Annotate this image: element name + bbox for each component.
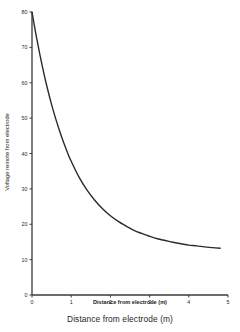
chart-background xyxy=(0,0,240,305)
y-tick-label: 30 xyxy=(22,186,28,192)
y-tick-label: 10 xyxy=(22,257,28,263)
y-tick-label: 80 xyxy=(22,9,28,15)
x-tick-label: 5 xyxy=(227,299,230,305)
y-tick-label: 40 xyxy=(22,151,28,157)
y-tick-label: 20 xyxy=(22,221,28,227)
y-tick-label: 0 xyxy=(25,292,28,298)
x-axis-title: Distance from electrode (m) xyxy=(93,299,167,305)
y-axis-title: Voltage remote from electrode xyxy=(4,113,10,191)
figure-caption: Distance from electrode (m) xyxy=(0,314,240,324)
x-tick-label: 0 xyxy=(31,299,34,305)
y-tick-label: 70 xyxy=(22,44,28,50)
x-tick-label: 1 xyxy=(70,299,73,305)
chart-figure: 01020304050607080 012345 Voltage remote … xyxy=(0,0,240,332)
y-tick-label: 60 xyxy=(22,80,28,86)
y-tick-label: 50 xyxy=(22,115,28,121)
x-tick-label: 4 xyxy=(187,299,190,305)
voltage-distance-chart: 01020304050607080 012345 Voltage remote … xyxy=(0,0,240,305)
